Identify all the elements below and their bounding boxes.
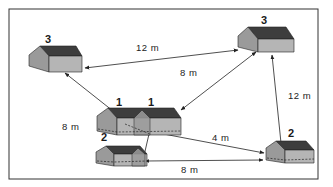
house-top-left: 3 bbox=[29, 33, 82, 72]
distance-label-4m: 4 m bbox=[212, 132, 229, 143]
house-label: 2 bbox=[101, 131, 107, 143]
house-label: 3 bbox=[261, 14, 267, 26]
house-center-lower: 2 bbox=[96, 131, 147, 166]
house-label: 2 bbox=[288, 127, 294, 139]
distance-label-8m-left: 8 m bbox=[62, 121, 79, 132]
distance-label-8m-bottom: 8 m bbox=[181, 164, 198, 175]
arrow-12m-right bbox=[272, 55, 281, 143]
distance-diagram: 3 3 1 1 2 2 12 m 8 m 8 m 12 m 4 m bbox=[0, 0, 333, 187]
house-label-1b: 1 bbox=[148, 96, 154, 108]
distance-label-8m-diagonal: 8 m bbox=[180, 67, 197, 78]
house-bottom-right: 2 bbox=[266, 127, 314, 163]
arrow-12m-top bbox=[85, 50, 238, 68]
house-center-upper: 1 1 bbox=[97, 96, 181, 135]
arrow-8m-diagonal bbox=[181, 52, 256, 110]
house-label-1a: 1 bbox=[116, 96, 122, 108]
arrow-8m-bottom bbox=[145, 160, 263, 161]
house-top-right: 3 bbox=[238, 14, 294, 52]
distance-label-12m-right: 12 m bbox=[288, 90, 311, 101]
distance-label-12m-top: 12 m bbox=[136, 42, 159, 53]
house-label: 3 bbox=[45, 33, 51, 45]
distance-arrows bbox=[65, 50, 281, 161]
arrow-8m-left bbox=[65, 73, 113, 111]
